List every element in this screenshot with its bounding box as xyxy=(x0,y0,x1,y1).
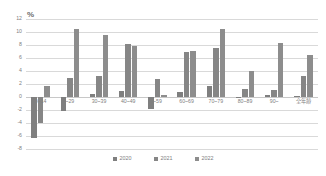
x-tick-label: 全年齢 xyxy=(296,99,311,104)
bar-2021-70~79[interactable] xyxy=(213,48,219,97)
bar-2022-70~79[interactable] xyxy=(220,29,226,97)
legend-item-2021[interactable]: 2021 xyxy=(154,156,173,161)
bar-slot xyxy=(271,19,277,149)
x-tick-label: 40~49 xyxy=(121,99,136,104)
bar-slot xyxy=(278,19,284,149)
gridline--8 xyxy=(26,149,318,150)
bar-slot xyxy=(103,19,109,149)
bar-2022-~29[interactable] xyxy=(74,29,80,97)
bar-group-bars xyxy=(114,19,143,149)
bar-slot xyxy=(44,19,50,149)
bar-slot xyxy=(119,19,125,149)
y-tick-label: -2 xyxy=(17,107,22,112)
bar-slot xyxy=(155,19,161,149)
bar-2020-60~69[interactable] xyxy=(177,92,183,97)
y-tick-label: 6 xyxy=(19,55,22,60)
bar-2020-30~39[interactable] xyxy=(90,94,96,97)
legend-item-2022[interactable]: 2022 xyxy=(195,156,214,161)
legend-swatch-icon xyxy=(113,157,117,161)
bar-chart: % 121086420-2-4-6-8 0~14~2930~3940~49~59… xyxy=(0,0,326,176)
bar-slot xyxy=(74,19,80,149)
bar-slot xyxy=(242,19,248,149)
bar-2021-30~39[interactable] xyxy=(96,76,102,97)
y-tick-label: 12 xyxy=(16,16,22,21)
bar-slot xyxy=(96,19,102,149)
bar-2020-40~49[interactable] xyxy=(119,91,125,98)
y-tick-label: -8 xyxy=(17,146,22,151)
bar-groups: 0~14~2930~3940~49~5960~6970~7980~8990~全年… xyxy=(26,19,318,149)
y-tick-label: 4 xyxy=(19,68,22,73)
bar-2020-90~[interactable] xyxy=(265,95,271,97)
bar-2020-70~79[interactable] xyxy=(207,86,213,97)
bar-slot xyxy=(161,19,167,149)
y-tick-label: 10 xyxy=(16,29,22,34)
y-axis-unit-label: % xyxy=(27,11,34,19)
bar-group: ~59 xyxy=(143,19,172,149)
bar-group: 30~39 xyxy=(84,19,113,149)
bar-2021-~29[interactable] xyxy=(67,78,73,98)
bar-group: 70~79 xyxy=(201,19,230,149)
y-tick-label: -6 xyxy=(17,133,22,138)
bar-group-bars xyxy=(143,19,172,149)
bar-2020-全年齢[interactable] xyxy=(294,96,300,97)
bar-slot xyxy=(236,19,242,149)
bar-slot xyxy=(177,19,183,149)
bar-2021-60~69[interactable] xyxy=(184,52,190,97)
bar-2021-全年齢[interactable] xyxy=(301,76,307,97)
bar-group: 80~89 xyxy=(230,19,259,149)
legend-label: 2022 xyxy=(202,156,214,161)
x-tick-label: 0~14 xyxy=(35,99,47,104)
bar-2021-40~49[interactable] xyxy=(125,44,131,97)
bar-2022-30~39[interactable] xyxy=(103,35,109,97)
bar-2022-60~69[interactable] xyxy=(190,51,196,97)
bar-2021-~59[interactable] xyxy=(155,79,161,97)
bar-group-bars xyxy=(172,19,201,149)
x-tick-label: ~29 xyxy=(65,99,74,104)
bar-slot xyxy=(249,19,255,149)
bar-group: 60~69 xyxy=(172,19,201,149)
bar-slot xyxy=(31,19,37,149)
bar-group-bars xyxy=(260,19,289,149)
bar-group: 0~14 xyxy=(26,19,55,149)
plot-area: 121086420-2-4-6-8 0~14~2930~3940~49~5960… xyxy=(26,19,318,149)
bar-group-bars xyxy=(55,19,84,149)
x-tick-label: ~59 xyxy=(153,99,162,104)
legend-item-2020[interactable]: 2020 xyxy=(113,156,132,161)
bar-slot xyxy=(132,19,138,149)
chart-legend: 202020212022 xyxy=(0,156,326,161)
bar-2022-90~[interactable] xyxy=(278,43,284,97)
x-tick-label: 90~ xyxy=(270,99,279,104)
bar-2022-~59[interactable] xyxy=(161,95,167,97)
legend-swatch-icon xyxy=(195,157,199,161)
bar-group-bars xyxy=(201,19,230,149)
bar-slot xyxy=(294,19,300,149)
bar-group: 全年齢 xyxy=(289,19,318,149)
bar-group-bars xyxy=(230,19,259,149)
bar-slot xyxy=(90,19,96,149)
bar-group-bars xyxy=(26,19,55,149)
bar-slot xyxy=(38,19,44,149)
bar-group: 90~ xyxy=(260,19,289,149)
bar-slot xyxy=(220,19,226,149)
y-tick-label: 0 xyxy=(19,94,22,99)
bar-2022-80~89[interactable] xyxy=(249,71,255,97)
bar-group-bars xyxy=(289,19,318,149)
bar-2022-0~14[interactable] xyxy=(44,86,50,97)
bar-2022-40~49[interactable] xyxy=(132,46,138,97)
bar-slot xyxy=(307,19,313,149)
y-tick-label: 2 xyxy=(19,81,22,86)
bar-slot xyxy=(148,19,154,149)
bar-slot xyxy=(125,19,131,149)
x-tick-label: 80~89 xyxy=(238,99,253,104)
legend-label: 2021 xyxy=(161,156,173,161)
bar-slot xyxy=(61,19,67,149)
bar-2021-80~89[interactable] xyxy=(242,89,248,97)
x-tick-label: 70~79 xyxy=(209,99,224,104)
y-tick-label: -4 xyxy=(17,120,22,125)
bar-group: ~29 xyxy=(55,19,84,149)
bar-2022-全年齢[interactable] xyxy=(307,55,313,97)
bar-slot xyxy=(265,19,271,149)
bar-2021-90~[interactable] xyxy=(271,90,277,97)
x-tick-label: 30~39 xyxy=(92,99,107,104)
bar-slot xyxy=(207,19,213,149)
